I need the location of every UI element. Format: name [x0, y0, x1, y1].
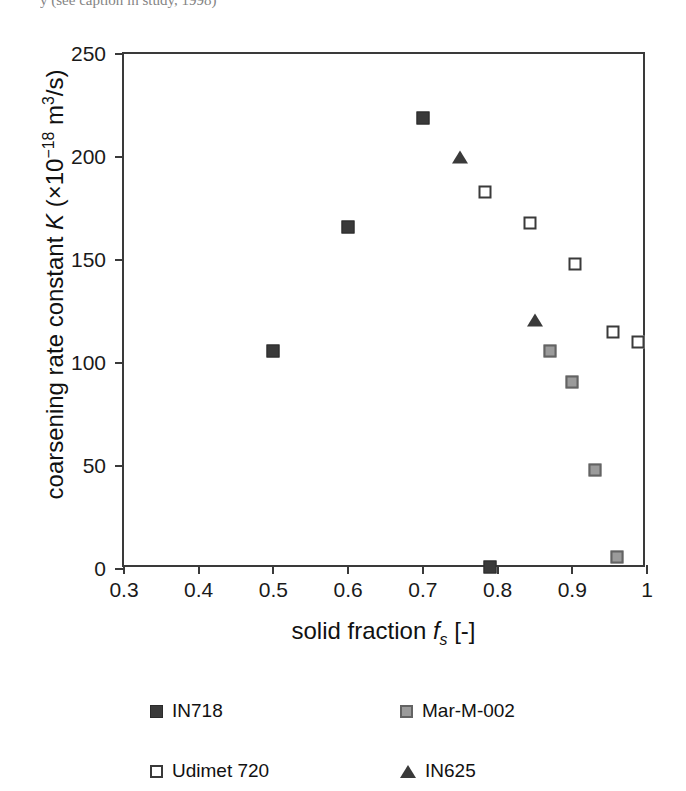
legend-marker-icon [150, 705, 163, 718]
legend-item-label: IN625 [425, 760, 476, 782]
x-axis-title-symbol: f [433, 617, 440, 644]
data-point-mar-m-002 [588, 464, 601, 477]
y-axis-tick [115, 156, 124, 158]
y-axis-tick-label: 50 [83, 454, 106, 478]
y-axis-title-prefix: coarsening rate constant [41, 230, 68, 500]
data-point-udimet-720 [523, 216, 536, 229]
y-axis-tick [115, 568, 124, 570]
legend-item-in625[interactable]: IN625 [400, 760, 620, 782]
data-point-mar-m-002 [543, 344, 556, 357]
legend-item-mar-m-002[interactable]: Mar-M-002 [400, 700, 620, 722]
legend-item-udimet-720[interactable]: Udimet 720 [150, 760, 400, 782]
data-point-in625 [527, 313, 543, 326]
data-points-layer [124, 54, 643, 565]
y-axis-title-close: m [41, 105, 68, 132]
x-axis-title: solid fraction fs [-] [122, 617, 645, 649]
legend-marker-icon [400, 765, 416, 778]
x-axis-tick [272, 565, 274, 574]
data-point-in718 [342, 221, 355, 234]
figure-scatter-coarsening-rate: y (see caption in study, 1998) 0.30.40.5… [0, 0, 686, 791]
clipped-caption-text: y (see caption in study, 1998) [40, 0, 460, 10]
legend-marker-icon [400, 705, 413, 718]
data-point-in718 [484, 560, 497, 573]
x-axis-tick [571, 565, 573, 574]
plot-area: 0.30.40.50.60.70.80.91050100150200250 [122, 52, 645, 567]
y-axis-title-tail: /s) [41, 70, 68, 97]
legend-item-label: Mar-M-002 [422, 700, 515, 722]
y-axis-tick [115, 362, 124, 364]
x-axis-tick [347, 565, 349, 574]
x-axis-tick-label: 1 [641, 578, 653, 602]
x-axis-tick-label: 0.9 [558, 578, 587, 602]
data-point-in718 [267, 344, 280, 357]
data-point-udimet-720 [568, 258, 581, 271]
x-axis-tick-label: 0.3 [109, 578, 138, 602]
data-point-in625 [452, 151, 468, 164]
legend: IN718Mar-M-002Udimet 720IN625 [150, 700, 620, 782]
y-axis-title-exponent-cubed: 3 [40, 96, 57, 105]
x-axis-title-suffix: [-] [448, 617, 476, 644]
y-axis-tick [115, 465, 124, 467]
y-axis-tick-label: 100 [71, 351, 106, 375]
y-axis-title-exponent: −18 [40, 132, 57, 159]
x-axis-tick-label: 0.7 [408, 578, 437, 602]
data-point-mar-m-002 [611, 550, 624, 563]
x-axis-tick-label: 0.8 [483, 578, 512, 602]
y-axis-tick [115, 259, 124, 261]
y-axis-tick [115, 53, 124, 55]
legend-item-label: IN718 [172, 700, 223, 722]
y-axis-tick-label: 0 [94, 557, 106, 581]
x-axis-title-subscript: s [440, 631, 448, 648]
y-axis-title-open: (×10 [41, 159, 68, 214]
y-axis-title: coarsening rate constant K (×10−18 m3/s) [40, 25, 69, 545]
legend-item-label: Udimet 720 [172, 760, 269, 782]
data-point-udimet-720 [632, 336, 645, 349]
x-axis-title-prefix: solid fraction [292, 617, 433, 644]
x-axis-tick [497, 565, 499, 574]
data-point-udimet-720 [478, 186, 491, 199]
y-axis-tick-label: 200 [71, 145, 106, 169]
x-axis-tick-label: 0.6 [334, 578, 363, 602]
x-axis-tick [422, 565, 424, 574]
y-axis-title-symbol: K [41, 214, 68, 230]
legend-item-in718[interactable]: IN718 [150, 700, 400, 722]
legend-marker-icon [150, 765, 163, 778]
x-axis-tick [198, 565, 200, 574]
data-point-in718 [416, 111, 429, 124]
y-axis-tick-label: 250 [71, 42, 106, 66]
data-point-udimet-720 [607, 326, 620, 339]
y-axis-tick-label: 150 [71, 248, 106, 272]
x-axis-tick-label: 0.5 [259, 578, 288, 602]
x-axis-tick-label: 0.4 [184, 578, 213, 602]
x-axis-tick [646, 565, 648, 574]
data-point-mar-m-002 [566, 375, 579, 388]
